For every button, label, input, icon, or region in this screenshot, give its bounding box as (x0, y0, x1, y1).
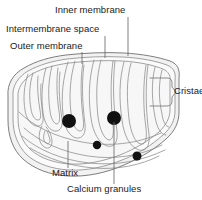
calcium-granule-small-right (133, 152, 142, 161)
label-calcium-granules: Calcium granules (67, 183, 141, 194)
label-matrix: Matrix (52, 167, 78, 178)
calcium-granule-large-left (62, 114, 76, 128)
calcium-granule-small-mid (93, 141, 101, 149)
mitochondrion-diagram: Inner membrane Intermembrane space Outer… (0, 0, 202, 200)
label-cristae: Cristae (174, 85, 202, 96)
label-outer-membrane: Outer membrane (10, 40, 83, 51)
label-intermembrane-space: Intermembrane space (6, 23, 99, 34)
label-inner-membrane: Inner membrane (55, 4, 125, 15)
